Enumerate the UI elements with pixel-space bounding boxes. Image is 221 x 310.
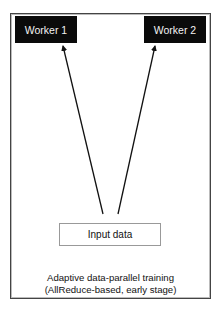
arrow-input-to-worker-2 (118, 46, 155, 214)
arrow-input-to-worker-1 (63, 46, 103, 214)
caption-line-2: (AllReduce-based, early stage) (10, 284, 211, 296)
caption-line-1: Adaptive data-parallel training (10, 272, 211, 284)
diagram-caption: Adaptive data-parallel training (AllRedu… (10, 272, 211, 296)
input-data-label: Input data (88, 229, 132, 240)
input-data-node: Input data (59, 223, 161, 246)
edges-layer (0, 0, 221, 310)
